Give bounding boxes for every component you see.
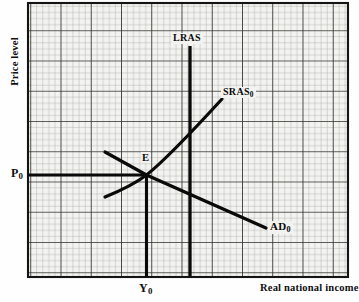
- tick-label-p0: P0: [11, 166, 23, 181]
- lras-curve-label: LRAS: [171, 33, 203, 44]
- tick-label-y0-subscript: 0: [148, 286, 153, 296]
- equilibrium-point-label: E: [141, 152, 150, 163]
- tick-label-p0-base: P: [11, 166, 19, 180]
- ad-curve-label-subscript: 0: [287, 225, 291, 234]
- ad-curve-label-base: AD: [270, 220, 287, 232]
- sras-curve-label: SRAS0: [221, 87, 256, 98]
- tick-label-y0-base: Y: [139, 281, 148, 295]
- grid-background: [28, 3, 348, 277]
- ad-curve-label: AD0: [268, 221, 293, 234]
- y-axis-label: Price level: [9, 24, 20, 100]
- tick-label-y0: Y0: [139, 281, 153, 296]
- sras-curve-label-base: SRAS: [223, 86, 250, 97]
- sras-curve-label-subscript: 0: [250, 90, 254, 99]
- x-axis-label: Real national income: [260, 282, 359, 293]
- tick-label-p0-subscript: 0: [19, 171, 24, 181]
